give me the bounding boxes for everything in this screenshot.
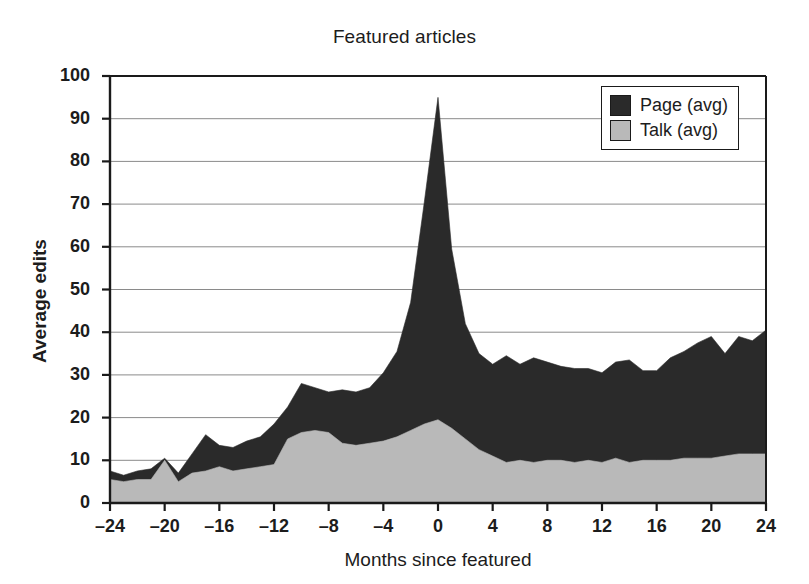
x-tick-label: –24 [84,516,136,537]
x-tick-label: –4 [357,516,409,537]
y-tick-label: 0 [32,492,90,513]
area-series-group [110,97,766,503]
x-tick-label: –20 [139,516,191,537]
x-tick-label: 0 [412,516,464,537]
x-tick-label: 4 [467,516,519,537]
y-tick-label: 100 [32,65,90,86]
y-tick-label: 20 [32,407,90,428]
legend-swatch-page-icon [610,95,631,116]
legend-label-talk: Talk (avg) [640,120,718,141]
legend-swatch-talk-icon [610,120,631,141]
x-tick-label: 12 [576,516,628,537]
y-tick-label: 70 [32,193,90,214]
x-tick-label: 24 [740,516,792,537]
x-tick-label: –16 [193,516,245,537]
legend-label-page: Page (avg) [640,95,728,116]
x-tick-label: 20 [685,516,737,537]
y-tick-label: 90 [32,108,90,129]
x-tick-label: 16 [631,516,683,537]
y-tick-label: 40 [32,321,90,342]
y-tick-label: 50 [32,279,90,300]
x-tick-label: –12 [248,516,300,537]
y-tick-label: 10 [32,449,90,470]
x-tick-label: 8 [521,516,573,537]
legend-item-page: Page (avg) [610,93,728,118]
y-tick-label: 30 [32,364,90,385]
legend-item-talk: Talk (avg) [610,118,728,143]
chart-legend: Page (avg) Talk (avg) [601,86,739,150]
y-tick-label: 80 [32,150,90,171]
x-tick-label: –8 [303,516,355,537]
y-tick-label: 60 [32,236,90,257]
chart-figure: Featured articles Average edits Months s… [0,0,809,584]
